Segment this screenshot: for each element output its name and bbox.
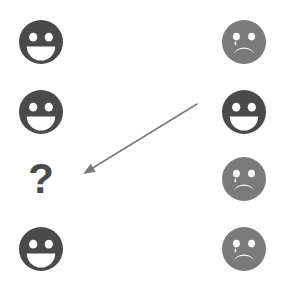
arrow-shaft [89,104,197,170]
question-mark-icon: ? [17,155,65,203]
happy-face-icon [220,88,268,136]
happy-face-icon [17,18,65,66]
happy-face-icon [17,88,65,136]
sad-face-icon [220,155,268,203]
arrow-head [83,164,96,174]
smiley-grid-canvas: ? [0,0,284,289]
sad-face-icon [220,225,268,273]
arrow-icon [83,104,197,174]
sad-face-icon [220,18,268,66]
happy-face-icon [17,225,65,273]
